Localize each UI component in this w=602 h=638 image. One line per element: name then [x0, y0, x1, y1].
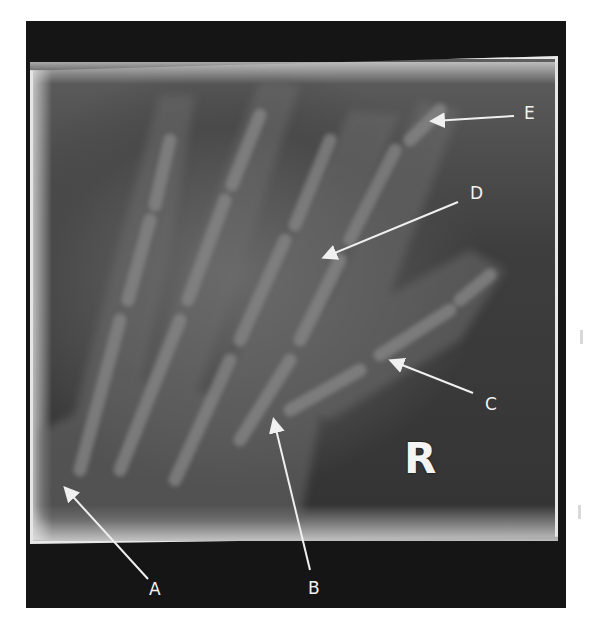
label-c: C	[485, 396, 497, 413]
label-e: E	[524, 105, 535, 122]
hand-bones	[0, 0, 602, 638]
side-marker-r: R	[404, 438, 436, 480]
label-d: D	[470, 185, 483, 202]
arrow-c	[392, 361, 473, 393]
scan-artifact	[580, 330, 583, 344]
label-a: A	[149, 581, 161, 598]
label-b: B	[308, 580, 320, 597]
scan-artifact	[578, 505, 581, 519]
